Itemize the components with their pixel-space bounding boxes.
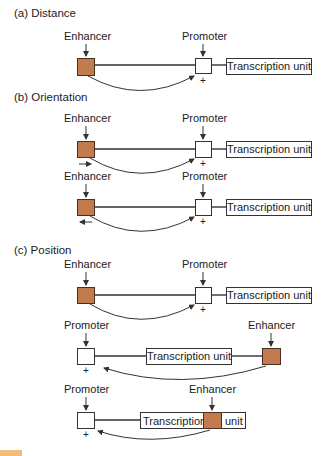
promoter-box xyxy=(77,412,95,429)
promoter-box xyxy=(195,58,212,74)
enhancer-box xyxy=(77,58,95,76)
plus-sign: + xyxy=(200,158,206,169)
transcription-unit-box: Transcription unit xyxy=(226,287,312,304)
plus-sign: + xyxy=(200,304,206,315)
promoter-box xyxy=(77,348,95,365)
plus-sign: + xyxy=(83,429,89,440)
enhancer-box xyxy=(77,287,95,304)
figure-number-tag xyxy=(0,450,22,456)
transcription-unit-box: Transcription unit xyxy=(226,58,312,75)
promoter-label: Promoter xyxy=(182,112,227,124)
enhancer-label: Enhancer xyxy=(64,30,111,42)
plus-sign: + xyxy=(200,75,206,86)
unit-text: unit xyxy=(225,414,243,428)
plus-sign: + xyxy=(200,216,206,227)
enhancer-box xyxy=(77,199,95,216)
enhancer-label: Enhancer xyxy=(248,319,295,331)
enhancer-box xyxy=(77,141,95,158)
enhancer-label: Enhancer xyxy=(64,258,111,270)
enhancer-box xyxy=(262,348,281,365)
promoter-label: Promoter xyxy=(64,383,109,395)
enhancer-label: Enhancer xyxy=(64,170,111,182)
orientation-right-arrow-icon xyxy=(79,160,80,161)
promoter-label: Promoter xyxy=(182,30,227,42)
enhancer-label: Enhancer xyxy=(189,383,236,395)
transcription-unit-box: Transcription unit xyxy=(146,348,232,365)
promoter-label: Promoter xyxy=(182,258,227,270)
promoter-label: Promoter xyxy=(64,319,109,331)
transcription-unit-box: Transcription unit xyxy=(226,141,312,158)
enhancer-box xyxy=(203,412,222,429)
transcription-text: Transcription xyxy=(143,414,206,428)
orientation-left-arrow-icon xyxy=(80,218,81,219)
promoter-box xyxy=(195,199,212,216)
promoter-box xyxy=(195,287,212,304)
enhancer-label: Enhancer xyxy=(64,112,111,124)
plus-sign: + xyxy=(83,365,89,376)
promoter-label: Promoter xyxy=(182,170,227,182)
transcription-unit-box: Transcription unit xyxy=(226,199,312,216)
promoter-box xyxy=(195,141,212,158)
transcription-unit-split-box: Transcription unit xyxy=(140,412,246,429)
